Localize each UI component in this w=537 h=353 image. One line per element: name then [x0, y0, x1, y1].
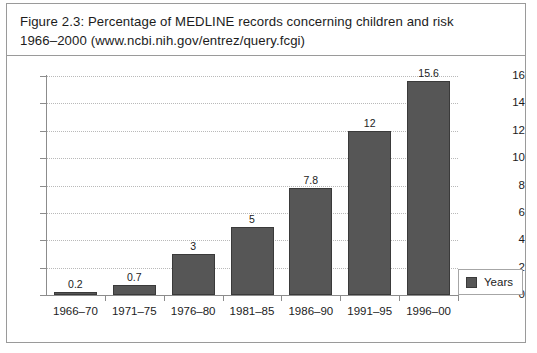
figure-caption: Figure 2.3: Percentage of MEDLINE record…	[7, 4, 525, 56]
chart-legend[interactable]: Years	[458, 269, 523, 295]
chart-y-axis-line	[46, 75, 47, 296]
figure-caption-line-2: 1966–2000 (www.ncbi.nih.gov/entrez/query…	[20, 31, 513, 50]
bar-value-label: 3	[163, 241, 223, 252]
y-axis-label: 8	[499, 180, 525, 191]
chart-bar[interactable]	[348, 131, 391, 295]
x-axis-tick	[223, 295, 224, 301]
y-axis-label: 14	[499, 97, 525, 108]
x-axis-tick	[458, 295, 459, 301]
gridline	[47, 186, 458, 187]
x-axis-tick	[399, 295, 400, 301]
gridline	[47, 131, 458, 132]
y-axis-label: 16	[499, 70, 525, 81]
x-axis-tick	[105, 295, 106, 301]
x-axis-tick	[281, 295, 282, 301]
gridline	[47, 103, 458, 104]
gridline	[47, 158, 458, 159]
chart-plot-area: 0246810121416 0.20.7357.81215.6 1966–701…	[7, 56, 525, 342]
legend-label-years: Years	[484, 276, 513, 288]
bar-value-label: 7.8	[281, 175, 341, 186]
y-axis-label: 10	[499, 152, 525, 163]
y-axis-label: 6	[499, 207, 525, 218]
bar-value-label: 15.6	[399, 68, 459, 79]
bar-value-label: 0.2	[45, 279, 105, 290]
x-axis-label: 1996–00	[394, 305, 464, 317]
chart-bar[interactable]	[172, 254, 215, 295]
x-axis-tick	[340, 295, 341, 301]
chart-bar[interactable]	[407, 81, 450, 295]
x-axis-tick	[164, 295, 165, 301]
chart-bar[interactable]	[231, 227, 274, 295]
bar-value-label: 12	[340, 118, 400, 129]
y-axis-label: 4	[499, 234, 525, 245]
bar-value-label: 0.7	[104, 272, 164, 283]
legend-swatch-years	[466, 277, 477, 288]
chart-bar[interactable]	[113, 285, 156, 295]
chart-bar[interactable]	[54, 292, 97, 295]
chart-bar[interactable]	[289, 188, 332, 295]
figure-caption-line-1: Figure 2.3: Percentage of MEDLINE record…	[20, 12, 513, 31]
chart-x-axis-line	[46, 295, 458, 296]
figure-frame: Figure 2.3: Percentage of MEDLINE record…	[6, 3, 526, 343]
y-axis-label: 12	[499, 125, 525, 136]
bar-value-label: 5	[222, 214, 282, 225]
gridline	[47, 76, 458, 77]
